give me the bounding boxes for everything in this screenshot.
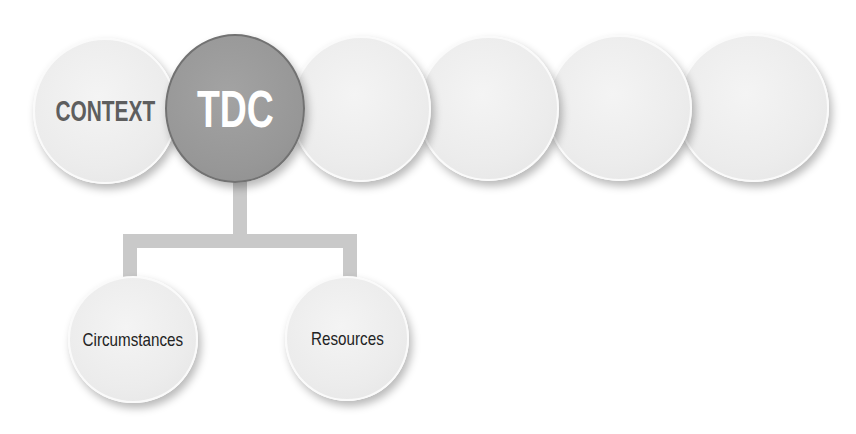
connector-stem — [233, 176, 247, 242]
node-empty-3[interactable] — [547, 35, 692, 181]
node-empty-1[interactable] — [291, 36, 431, 182]
node-circumstances[interactable]: Circumstances — [68, 276, 198, 403]
node-circumstances-label: Circumstances — [83, 329, 184, 351]
connector-right-drop — [343, 234, 357, 280]
node-empty-2[interactable] — [418, 36, 559, 181]
node-context[interactable]: CONTEXT — [33, 38, 177, 184]
node-empty-4[interactable] — [677, 34, 829, 182]
node-resources-label: Resources — [311, 328, 384, 350]
node-tdc[interactable]: TDC — [165, 34, 305, 183]
node-context-label: CONTEXT — [55, 95, 155, 128]
connector-left-drop — [123, 234, 137, 280]
node-resources[interactable]: Resources — [285, 276, 409, 401]
connector-bar — [123, 234, 357, 248]
node-tdc-label: TDC — [197, 79, 274, 139]
